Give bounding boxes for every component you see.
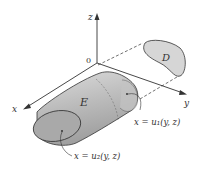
origin-label: 0 <box>86 56 91 65</box>
z-axis <box>95 13 100 63</box>
back-surface-u1 <box>120 80 138 111</box>
z-axis-label: z <box>87 12 93 22</box>
region-d-label: D <box>161 52 170 63</box>
leader-u1-dot <box>126 93 128 95</box>
x-axis-label: x <box>12 104 17 114</box>
back-surface-label: x = u₁(y, z) <box>134 117 180 127</box>
leader-u2-dot <box>61 130 63 132</box>
solid-e-label: E <box>79 96 88 109</box>
y-axis-label: y <box>183 98 190 108</box>
type3-region-diagram: z 0 y D x E x = u₁(y, z) x = u₂(y, z) <box>0 0 203 170</box>
front-surface-label: x = u₂(y, z) <box>74 151 120 161</box>
diagram-canvas: z 0 y D x E x = u₁(y, z) x = u₂(y, z) <box>0 0 203 170</box>
